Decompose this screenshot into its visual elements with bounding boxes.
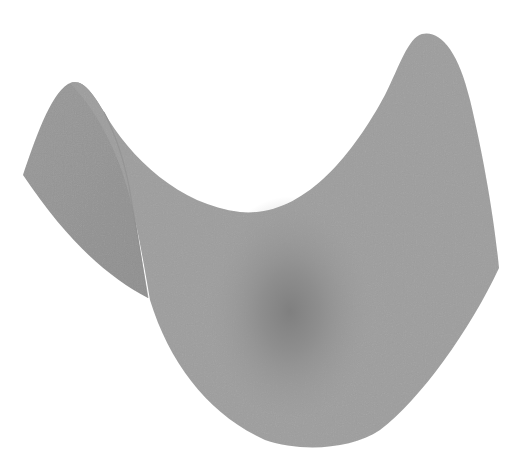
surface-center-shadow <box>205 185 375 415</box>
saddle-surface-figure: saddle surface (hyperbolic paraboloid) <box>0 0 518 470</box>
saddle-surface-graphic <box>0 0 518 470</box>
